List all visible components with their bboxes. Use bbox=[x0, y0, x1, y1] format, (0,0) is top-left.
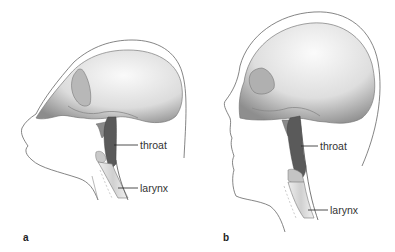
neck-front-a bbox=[92, 176, 98, 200]
panel-a bbox=[21, 40, 186, 200]
panel-b bbox=[224, 12, 380, 232]
larynx-label-a: larynx bbox=[140, 183, 168, 194]
larynx-b bbox=[288, 182, 314, 218]
panel-caption-b: b bbox=[223, 233, 229, 243]
throat-a bbox=[104, 117, 116, 170]
larynx-label-b: larynx bbox=[330, 205, 358, 216]
epiglottis-a bbox=[96, 151, 106, 163]
throat-label-a: throat bbox=[140, 140, 167, 151]
larynx-a bbox=[98, 162, 128, 198]
panel-caption-a: a bbox=[23, 233, 29, 243]
throat-label-b: throat bbox=[320, 141, 347, 152]
